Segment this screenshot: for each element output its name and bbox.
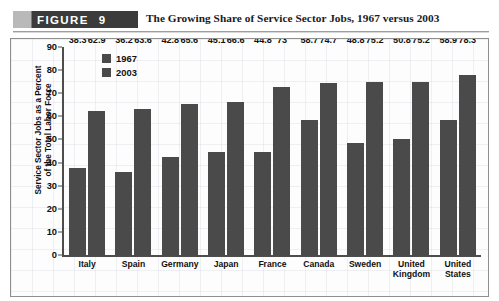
y-axis-tick-mark: [58, 231, 62, 232]
bar-group: 42.865.6: [157, 47, 203, 256]
bar-column: 74.7: [320, 47, 337, 256]
y-axis-tick-mark: [58, 70, 62, 71]
y-axis-tick-mark: [58, 255, 62, 256]
bar-1967: 58.9: [440, 120, 457, 256]
figure-title: The Growing Share of Service Sector Jobs…: [146, 12, 439, 24]
bar-group: 48.875.2: [342, 47, 388, 256]
bar-2003: 66.6: [227, 102, 244, 256]
y-axis-tick-label: 10: [47, 227, 57, 237]
x-axis-label: Spain: [110, 259, 156, 279]
y-axis-tick-label: 90: [47, 42, 57, 52]
bar-group: 44.873: [249, 47, 295, 256]
y-axis-tick-label: 0: [52, 250, 57, 260]
bar-2003: 63.6: [134, 109, 151, 256]
x-axis-labels: ItalySpainGermanyJapanFranceCanadaSweden…: [64, 259, 481, 279]
x-axis-label: UnitedStates: [435, 259, 481, 279]
x-axis-label: Canada: [296, 259, 342, 279]
y-axis-tick-label: 70: [47, 88, 57, 98]
bar-column: 75.2: [366, 47, 383, 256]
bar-1967: 42.8: [162, 157, 179, 256]
bar-column: 66.6: [227, 47, 244, 256]
x-axis-label: France: [249, 259, 295, 279]
bar-value-label: 73: [277, 38, 287, 45]
bar-2003: 73: [273, 87, 290, 256]
bar-column: 38.3: [69, 47, 86, 256]
figure-header: FIGURE 9 The Growing Share of Service Se…: [0, 0, 499, 36]
y-axis-tick-mark: [58, 47, 62, 48]
bar-value-label: 50.8: [393, 38, 411, 45]
y-axis-tick-mark: [58, 139, 62, 140]
bar-value-label: 38.3: [69, 38, 87, 45]
x-axis-label: Japan: [203, 259, 249, 279]
bar-value-label: 66.6: [227, 38, 245, 45]
bar-1967: 36.2: [115, 172, 132, 256]
bar-column: 44.8: [254, 47, 271, 256]
y-axis-tick-mark: [58, 162, 62, 163]
bar-column: 58.7: [301, 47, 318, 256]
y-axis-tick-label: 60: [47, 111, 57, 121]
bar-value-label: 65.6: [180, 38, 198, 45]
bar-column: 62.9: [88, 47, 105, 256]
bar-value-label: 48.8: [347, 38, 365, 45]
bar-column: 58.9: [440, 47, 457, 256]
bar-value-label: 58.9: [439, 38, 457, 45]
y-axis-tick-label: 40: [47, 158, 57, 168]
bar-value-label: 75.2: [366, 38, 384, 45]
bar-1967: 48.8: [347, 143, 364, 256]
bar-value-label: 62.9: [88, 38, 106, 45]
bar-value-label: 74.7: [319, 38, 337, 45]
y-axis-tick-label: 80: [47, 65, 57, 75]
bar-1967: 50.8: [393, 139, 410, 256]
figure-banner-number: 9: [99, 14, 105, 26]
figure-panel: FIGURE 9 The Growing Share of Service Se…: [0, 0, 499, 301]
bar-group: 38.362.9: [64, 47, 110, 256]
bar-column: 50.8: [393, 47, 410, 256]
bar-group: 50.875.2: [388, 47, 434, 256]
bar-value-label: 42.8: [161, 38, 179, 45]
bar-value-label: 78.3: [458, 38, 476, 45]
bar-value-label: 44.8: [254, 38, 272, 45]
bar-value-label: 36.2: [115, 38, 133, 45]
bar-1967: 45.1: [208, 152, 225, 256]
y-axis-tick-mark: [58, 208, 62, 209]
bar-2003: 78.3: [459, 75, 476, 256]
bar-value-label: 63.6: [134, 38, 152, 45]
chart-frame: Service Sector Jobs as a Percent of the …: [10, 38, 489, 297]
y-axis-tick-mark: [58, 93, 62, 94]
bar-value-label: 58.7: [300, 38, 318, 45]
y-axis-tick-label: 30: [47, 181, 57, 191]
bar-group: 36.263.6: [110, 47, 156, 256]
bar-2003: 75.2: [412, 82, 429, 256]
bar-column: 73: [273, 47, 290, 256]
bar-column: 78.3: [459, 47, 476, 256]
y-axis-tick-mark: [58, 185, 62, 186]
header-divider-shadow: [13, 32, 489, 33]
bar-2003: 74.7: [320, 83, 337, 256]
y-axis-title-line1: Service Sector Jobs as a Percent: [34, 66, 45, 195]
bar-2003: 65.6: [181, 104, 198, 256]
bar-column: 36.2: [115, 47, 132, 256]
bar-2003: 62.9: [88, 111, 105, 256]
bar-column: 63.6: [134, 47, 151, 256]
bar-group: 58.978.3: [435, 47, 481, 256]
bar-1967: 58.7: [301, 120, 318, 256]
figure-banner: FIGURE 9: [13, 11, 138, 28]
bar-value-label: 45.1: [208, 38, 226, 45]
bar-1967: 44.8: [254, 152, 271, 256]
bar-groups: 38.362.936.263.642.865.645.166.644.87358…: [64, 47, 481, 256]
x-axis-label: Italy: [64, 259, 110, 279]
bar-group: 45.166.6: [203, 47, 249, 256]
bar-column: 65.6: [181, 47, 198, 256]
x-axis-label: Germany: [157, 259, 203, 279]
bar-column: 75.2: [412, 47, 429, 256]
bar-column: 42.8: [162, 47, 179, 256]
x-axis-label: UnitedKingdom: [388, 259, 434, 279]
y-axis-tick-label: 20: [47, 204, 57, 214]
figure-banner-label: FIGURE: [37, 14, 89, 26]
y-axis-tick-label: 50: [47, 134, 57, 144]
bar-1967: 38.3: [69, 168, 86, 257]
bar-value-label: 75.2: [412, 38, 430, 45]
bar-group: 58.774.7: [296, 47, 342, 256]
bar-2003: 75.2: [366, 82, 383, 256]
bar-column: 48.8: [347, 47, 364, 256]
